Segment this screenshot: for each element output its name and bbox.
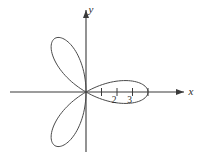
polar-rose-figure: 2 3 x y: [0, 0, 206, 161]
x-axis-label: x: [188, 85, 194, 97]
y-axis-label: y: [88, 3, 94, 15]
plot-canvas: 2 3 x y: [0, 0, 206, 161]
tick-label-3: 3: [127, 95, 132, 105]
tick-label-2: 2: [112, 95, 117, 105]
x-axis-arrow-icon: [176, 89, 184, 95]
rose-petal-lower-left: [51, 92, 86, 147]
rose-petal-upper-left: [51, 37, 86, 92]
axes-group: [10, 10, 184, 152]
